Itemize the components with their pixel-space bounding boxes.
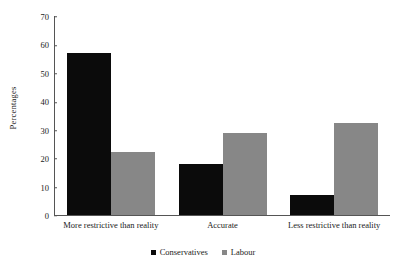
y-axis-title-text: Percentages (8, 87, 18, 130)
y-tick-mark (54, 216, 57, 217)
x-tick-label: Less restrictive than reality (278, 221, 390, 230)
bar-conservatives-2[interactable] (290, 195, 334, 215)
chart-legend: ConservativesLabour (0, 248, 406, 257)
plot-area: 010203040506070 (54, 16, 390, 216)
y-tick-60: 60 (41, 41, 55, 50)
bar-labour-0[interactable] (111, 152, 155, 215)
y-tick-20: 20 (41, 155, 55, 164)
legend-label: Conservatives (160, 248, 208, 257)
bar-group (278, 16, 390, 215)
bar-conservatives-1[interactable] (179, 164, 223, 215)
legend-item-conservatives[interactable]: Conservatives (151, 248, 208, 257)
y-tick-70: 70 (41, 13, 55, 22)
legend-item-labour[interactable]: Labour (222, 248, 256, 257)
y-tick-30: 30 (41, 126, 55, 135)
y-tick-40: 40 (41, 98, 55, 107)
bar-labour-2[interactable] (334, 123, 378, 215)
y-tick-0: 0 (45, 212, 54, 221)
legend-swatch-icon (151, 250, 156, 255)
bar-group (55, 16, 167, 215)
y-tick-50: 50 (41, 70, 55, 79)
legend-swatch-icon (222, 250, 227, 255)
y-tick-10: 10 (41, 183, 55, 192)
x-axis-tick-labels: More restrictive than realityAccurateLes… (55, 221, 390, 230)
legend-label: Labour (231, 248, 256, 257)
x-tick-label: More restrictive than reality (55, 221, 167, 230)
bar-labour-1[interactable] (223, 133, 267, 215)
bar-groups (55, 16, 390, 215)
x-axis-line (54, 215, 390, 216)
bar-group (167, 16, 279, 215)
bar-conservatives-0[interactable] (67, 53, 111, 215)
x-tick-label: Accurate (167, 221, 279, 230)
y-axis-title: Percentages (6, 0, 20, 216)
bar-chart: Percentages 010203040506070 More restric… (0, 0, 406, 278)
